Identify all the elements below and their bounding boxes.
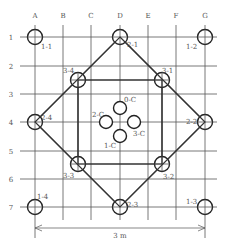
node-label: 2-3 [127,201,138,209]
column-label: A [31,12,38,20]
node-label: 3-3 [63,172,74,180]
foundation-grid-diagram: 3 m 1-11-21-31-42-12-22-32-43-13-23-33-4… [0,0,229,251]
center-node-label: 3-C [133,130,145,138]
column-label: F [174,12,179,20]
dimension-label: 3 m [113,232,127,240]
column-label: D [117,12,123,20]
node-label: 2-4 [41,114,53,122]
row-label: 1 [9,34,13,42]
row-label: 7 [9,204,13,212]
column-label: C [88,12,93,20]
node-label: 3-1 [162,67,173,75]
center-node-label: 0-C [124,96,136,104]
node-label: 1-1 [41,43,52,51]
node-label: 1-4 [37,193,49,201]
row-label: 4 [9,119,14,127]
row-label: 5 [9,148,13,156]
node-label: 3-4 [63,67,75,75]
node-label: 3-2 [163,173,174,181]
center-node-label: 1-C [104,142,116,150]
dimension-line: 3 m [35,225,205,240]
center-node-1-C [114,130,127,143]
column-label: E [145,12,150,20]
node-label: 1-3 [186,198,197,206]
row-label: 2 [9,63,13,71]
center-node-label: 2-C [92,111,104,119]
column-label: G [202,12,208,20]
row-label: 3 [9,91,13,99]
column-label: B [60,12,65,20]
row-label: 6 [9,176,14,184]
node-label: 1-2 [186,43,197,51]
center-node-3-C [128,116,141,129]
node-label: 2-2 [186,118,197,126]
